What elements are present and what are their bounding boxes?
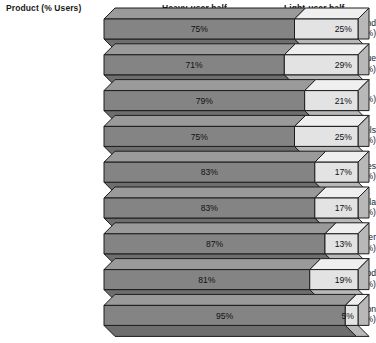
bar-value-heavy: 83% [201,167,219,177]
bar-value-light: 17% [335,167,353,177]
bar-light-top-face [284,44,369,55]
bar-heavy-top-face [104,80,316,91]
bar-value-light: 21% [335,96,353,106]
chart-container: Product (% Users) Heavy-user half Light-… [0,0,376,343]
bar-value-heavy: 75% [191,24,209,34]
bar-value-heavy: 79% [196,96,214,106]
bar-heavy-bottom-face [104,325,356,336]
bar-value-light: 19% [335,275,353,285]
bar-value-heavy: 95% [216,311,234,321]
bar-value-light: 25% [335,24,353,34]
bar-value-light: 25% [335,132,353,142]
bar-heavy-top-face [104,8,306,19]
bar-heavy-top-face [104,259,321,270]
bar-value-heavy: 75% [191,132,209,142]
bar-light-top-face [295,115,370,126]
bar-value-light: 29% [335,60,353,70]
bar-heavy-top-face [104,115,306,126]
bar-heavy-top-face [104,44,295,55]
bar-value-light: 17% [335,203,353,213]
bar-heavy-top-face [104,151,326,162]
bar-light-top-face [295,8,370,19]
bar-heavy-top-face [104,294,356,305]
bar-heavy-top-face [104,223,336,234]
bar-heavy-top-face [104,187,326,198]
bar-value-heavy: 81% [198,275,216,285]
bar-value-light: 5% [342,311,355,321]
bar-value-heavy: 71% [186,60,204,70]
bar-value-heavy: 83% [201,203,219,213]
bar-value-heavy: 87% [206,239,224,249]
bars-layer: 75%25%71%29%79%21%75%25%83%17%83%17%87%1… [0,0,376,343]
bar-value-light: 13% [335,239,353,249]
